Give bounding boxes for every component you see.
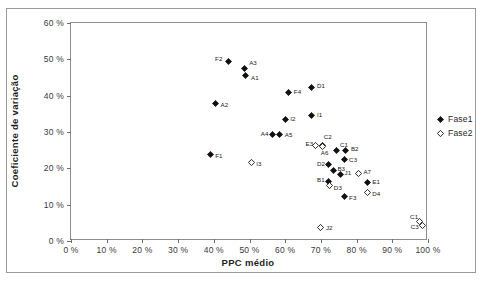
- data-point-label: A5: [285, 132, 293, 138]
- x-axis-title: PPC médio: [222, 257, 275, 268]
- data-point-label: D1: [317, 83, 325, 89]
- data-point-label: A3: [249, 60, 257, 66]
- data-point-label: F1: [215, 153, 222, 159]
- data-point-label: I3: [256, 161, 261, 167]
- legend-item-fase1[interactable]: Fase1: [437, 112, 482, 126]
- y-tick-mark: [67, 96, 71, 97]
- scatter-chart: Coeficiente de variação PPC médio 0 %10 …: [0, 0, 486, 290]
- data-point-fase1-f1: [207, 151, 214, 158]
- data-point-label: D2: [317, 161, 325, 167]
- data-point-fase1-b2: [342, 147, 349, 154]
- y-tick-label: 10 %: [44, 200, 64, 210]
- y-tick-label: 20 %: [44, 163, 64, 173]
- data-point-fase1-j1: [337, 171, 344, 178]
- data-point-label: J2: [326, 225, 333, 231]
- legend-label: Fase1: [448, 114, 473, 124]
- data-point-fase2-c3: [419, 222, 426, 229]
- figure: Coeficiente de variação PPC médio 0 %10 …: [0, 0, 486, 290]
- legend-item-fase2[interactable]: Fase2: [437, 126, 482, 140]
- y-tick-mark: [67, 132, 71, 133]
- data-point-fase1-e1: [364, 179, 371, 186]
- y-tick-mark: [67, 23, 71, 24]
- data-point-fase1-a3: [241, 65, 248, 72]
- data-point-label: D3: [334, 185, 342, 191]
- y-tick-mark: [67, 168, 71, 169]
- x-tick-mark: [142, 239, 143, 243]
- data-point-fase1-d1: [308, 84, 315, 91]
- chart-legend: Fase1Fase2: [437, 112, 482, 140]
- x-tick-label: 0 %: [63, 245, 78, 255]
- x-tick-label: 20 %: [132, 245, 152, 255]
- data-point-fase2-a7: [355, 170, 362, 177]
- x-tick-mark: [321, 239, 322, 243]
- data-point-label: F4: [294, 89, 301, 95]
- y-tick-label: 40 %: [44, 91, 64, 101]
- data-point-fase1-i1: [308, 112, 315, 119]
- y-tick-label: 0 %: [49, 236, 64, 246]
- legend-label: Fase2: [448, 128, 473, 138]
- x-tick-mark: [178, 239, 179, 243]
- data-point-label: C2: [324, 134, 332, 140]
- legend-open-diamond-icon: [437, 130, 444, 137]
- x-tick-label: 90 %: [382, 245, 402, 255]
- data-point-label: A7: [363, 169, 371, 175]
- x-tick-label: 70 %: [311, 245, 331, 255]
- data-point-label: F3: [349, 195, 356, 201]
- y-tick-label: 50 %: [44, 54, 64, 64]
- data-point-label: E1: [372, 179, 380, 185]
- x-tick-label: 10 %: [97, 245, 117, 255]
- data-point-label: F2: [215, 56, 222, 62]
- data-point-fase1-f4: [285, 89, 292, 96]
- data-point-label: I1: [317, 112, 322, 118]
- y-tick-mark: [67, 59, 71, 60]
- data-point-label: C1: [410, 214, 418, 220]
- data-point-label: D4: [372, 191, 380, 197]
- x-tick-label: 40 %: [204, 245, 224, 255]
- x-tick-mark: [214, 239, 215, 243]
- data-point-fase1-a5: [276, 131, 283, 138]
- x-tick-mark: [428, 239, 429, 243]
- data-point-label: A2: [221, 102, 229, 108]
- data-point-fase2-d3: [326, 182, 333, 189]
- x-tick-mark: [250, 239, 251, 243]
- data-point-fase1-f2: [225, 58, 232, 65]
- data-point-label: A6: [321, 150, 329, 156]
- data-point-label: A1: [251, 75, 259, 81]
- y-axis-title: Coeficiente de variação: [9, 74, 20, 187]
- x-tick-label: 80 %: [347, 245, 367, 255]
- data-point-fase1-a4: [269, 131, 276, 138]
- data-point-fase1-f3: [341, 193, 348, 200]
- x-tick-mark: [107, 239, 108, 243]
- x-tick-mark: [357, 239, 358, 243]
- data-point-label: B1: [317, 177, 325, 183]
- x-tick-mark: [392, 239, 393, 243]
- data-point-label: C3: [411, 224, 419, 230]
- data-point-label: J1: [345, 170, 352, 176]
- data-point-fase1-i2: [282, 116, 289, 123]
- data-point-fase1-c3: [341, 156, 348, 163]
- data-point-fase2-j2: [317, 224, 324, 231]
- data-point-fase1-a2: [212, 100, 219, 107]
- data-point-fase2-d4: [364, 189, 371, 196]
- plot-area: 0 %10 %20 %30 %40 %50 %60 % 0 %10 %20 %3…: [70, 22, 427, 240]
- data-point-label: C3: [349, 157, 357, 163]
- data-point-fase1-c1: [333, 147, 340, 154]
- data-point-label: E3: [306, 141, 314, 147]
- legend-filled-diamond-icon: [437, 116, 444, 123]
- x-tick-label: 100 %: [415, 245, 440, 255]
- x-tick-label: 30 %: [168, 245, 188, 255]
- y-tick-label: 60 %: [44, 18, 64, 28]
- data-point-label: A4: [261, 131, 269, 137]
- x-tick-mark: [285, 239, 286, 243]
- data-point-label: I2: [290, 116, 295, 122]
- x-tick-mark: [71, 239, 72, 243]
- data-point-fase1-a1: [242, 72, 249, 79]
- data-point-fase1-b3: [330, 167, 337, 174]
- y-tick-mark: [67, 205, 71, 206]
- y-tick-label: 30 %: [44, 127, 64, 137]
- x-tick-label: 60 %: [275, 245, 295, 255]
- data-point-fase2-i3: [248, 159, 255, 166]
- data-point-label: B2: [351, 146, 359, 152]
- x-tick-label: 50 %: [239, 245, 259, 255]
